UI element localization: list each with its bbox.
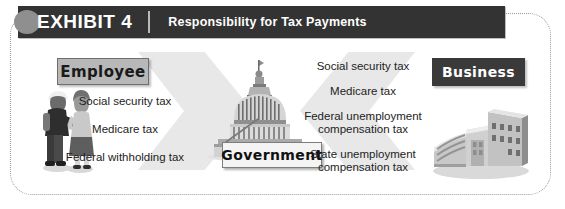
exhibit-number-label: EXHIBIT 4 (37, 11, 132, 33)
business-tax-list: Social security tax Medicare tax Federal… (298, 60, 428, 174)
exhibit-diagram: EXHIBIT 4 Responsibility for Tax Payment… (0, 0, 565, 209)
employee-tax-item: Federal withholding tax (56, 151, 194, 164)
header-divider (148, 11, 150, 33)
business-tax-item: Social security tax (298, 60, 428, 73)
business-box: Business (432, 58, 525, 86)
business-tax-item: Federal unemployment compensation tax (298, 110, 428, 136)
employee-tax-item: Social security tax (56, 95, 194, 108)
business-tax-item: State unemployment compensation tax (298, 148, 428, 174)
exhibit-header: EXHIBIT 4 Responsibility for Tax Payment… (18, 6, 505, 38)
business-box-label: Business (442, 64, 515, 80)
employee-tax-list: Social security tax Medicare tax Federal… (56, 95, 194, 164)
employee-tax-item: Medicare tax (56, 123, 194, 136)
employee-box: Employee (57, 58, 149, 85)
employee-box-label: Employee (60, 63, 145, 81)
business-tax-item: Medicare tax (298, 85, 428, 98)
office-building-icon (428, 104, 534, 180)
exhibit-title: Responsibility for Tax Payments (168, 15, 366, 29)
